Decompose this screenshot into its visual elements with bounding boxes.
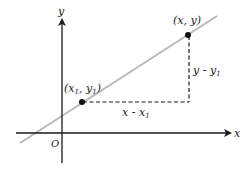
y-axis-label: y [57,5,65,18]
point-slope-diagram: y x O (x, y) (x1, y1) x - x1 y - y1 [0,0,249,173]
point-x1-y1 [79,99,85,105]
point-x-y-label: (x, y) [173,14,201,27]
run-label: x - x1 [122,106,150,120]
x-axis-label: x [234,127,241,140]
origin-label: O [51,138,59,149]
rise-label: y - y1 [192,64,221,78]
point-x1-y1-label: (x1, y1) [64,82,101,96]
point-x-y [185,32,191,38]
